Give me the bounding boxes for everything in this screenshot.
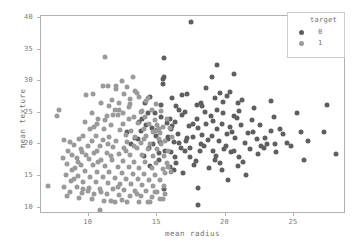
data-point — [164, 117, 169, 122]
data-point — [100, 137, 105, 142]
data-point — [106, 181, 111, 186]
data-point — [231, 72, 236, 77]
data-point — [240, 98, 245, 103]
data-point — [64, 194, 69, 199]
data-point — [81, 186, 86, 191]
legend-swatch-0 — [299, 30, 304, 35]
data-point — [251, 129, 256, 134]
data-point — [86, 156, 91, 161]
data-point — [166, 148, 171, 153]
data-point — [123, 132, 128, 137]
data-point — [159, 115, 164, 120]
data-point — [92, 124, 97, 129]
data-point — [281, 132, 286, 137]
data-point — [162, 74, 167, 79]
data-point — [257, 122, 262, 127]
data-point — [122, 187, 127, 192]
data-point — [160, 81, 165, 86]
data-point — [125, 199, 130, 204]
data-point — [106, 83, 111, 88]
data-point — [136, 120, 141, 125]
y-tick — [37, 17, 40, 18]
data-point — [89, 196, 94, 201]
data-point — [163, 192, 168, 197]
data-point — [249, 118, 254, 123]
data-point — [145, 199, 150, 204]
data-point — [153, 101, 158, 106]
data-point — [116, 100, 121, 105]
data-point — [137, 199, 142, 204]
data-point — [167, 125, 172, 130]
data-point — [97, 207, 102, 212]
data-point — [121, 158, 126, 163]
data-point — [159, 142, 164, 147]
data-point — [75, 159, 80, 164]
data-point — [156, 136, 161, 141]
data-point — [179, 113, 184, 118]
data-point — [125, 85, 130, 90]
data-point — [203, 109, 208, 114]
legend-title: target — [293, 16, 337, 24]
data-point — [127, 193, 132, 198]
data-point — [225, 94, 230, 99]
x-tick — [225, 213, 226, 216]
data-point — [204, 122, 209, 127]
data-point — [235, 163, 240, 168]
x-tick — [293, 213, 294, 216]
data-point — [218, 91, 223, 96]
data-point — [212, 95, 217, 100]
data-point — [242, 140, 247, 145]
data-point — [122, 91, 127, 96]
data-point — [132, 143, 137, 148]
data-point — [215, 126, 220, 131]
data-point — [185, 136, 190, 141]
data-point — [152, 172, 157, 177]
data-point — [144, 99, 149, 104]
data-point — [96, 160, 101, 165]
data-point — [162, 184, 167, 189]
data-point — [63, 173, 68, 178]
data-point — [255, 136, 260, 141]
data-point — [111, 144, 116, 149]
y-tick-label: 10 — [24, 203, 33, 211]
data-point — [73, 166, 78, 171]
data-point — [241, 160, 246, 165]
data-point — [138, 110, 143, 115]
data-point — [99, 100, 104, 105]
data-point — [141, 126, 146, 131]
data-point — [106, 142, 111, 147]
data-point — [305, 139, 310, 144]
legend-item-1[interactable]: 1 — [293, 38, 339, 49]
y-tick-label: 35 — [24, 45, 33, 53]
data-point — [132, 159, 137, 164]
data-point — [96, 117, 101, 122]
data-point — [218, 161, 223, 166]
y-tick — [37, 143, 40, 144]
data-point — [71, 143, 76, 148]
data-point — [104, 192, 109, 197]
data-point — [231, 148, 236, 153]
data-point — [174, 104, 179, 109]
data-point — [196, 186, 201, 191]
data-point — [90, 92, 95, 97]
data-point — [179, 93, 184, 98]
data-point — [324, 102, 329, 107]
data-point — [234, 116, 239, 121]
data-point — [92, 191, 97, 196]
data-point — [142, 160, 147, 165]
data-point — [220, 100, 225, 105]
data-point — [148, 141, 153, 146]
data-point — [103, 118, 108, 123]
legend-item-0[interactable]: 0 — [293, 27, 339, 38]
data-point — [103, 55, 108, 60]
data-point — [226, 177, 231, 182]
data-point — [110, 97, 115, 102]
data-point — [199, 141, 204, 146]
data-point — [151, 183, 156, 188]
data-point — [162, 154, 167, 159]
data-point — [99, 189, 104, 194]
data-point — [129, 128, 134, 133]
data-point — [245, 131, 250, 136]
data-point — [115, 184, 120, 189]
data-point — [207, 165, 212, 170]
